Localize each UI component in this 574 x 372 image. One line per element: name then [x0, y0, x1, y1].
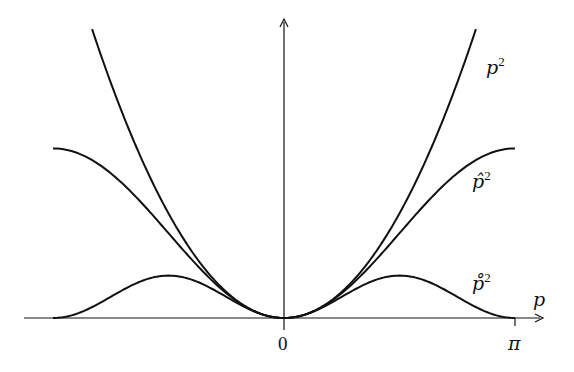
- pi-label: π: [507, 332, 521, 354]
- label-p-squared: p2: [486, 54, 505, 78]
- chart: p2 p̂2 p̊2 p 0 π: [0, 0, 574, 372]
- label-p-ring-squared: p̊2: [472, 270, 491, 294]
- x-axis-label: p: [533, 288, 545, 310]
- label-p-hat-squared: p̂2: [472, 168, 491, 192]
- axes: [24, 19, 543, 330]
- origin-label: 0: [278, 333, 288, 354]
